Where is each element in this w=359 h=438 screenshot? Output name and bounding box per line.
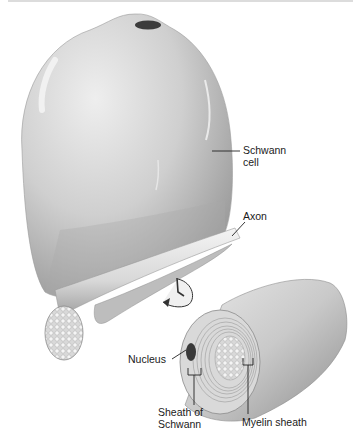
label-nucleus: Nucleus — [128, 353, 166, 365]
label-schwann-cell: Schwann cell — [243, 144, 286, 168]
label-myelin-sheath: Myelin sheath — [242, 416, 307, 428]
label-schwann-line1: Schwann — [243, 144, 286, 156]
label-schwann-line2: cell — [243, 156, 286, 168]
diagram-illustration — [0, 0, 359, 438]
label-sheath-line2: Schwann — [158, 418, 203, 430]
axon-cut-end — [45, 306, 83, 360]
schwann-cell-diagram: Schwann cell Axon Nucleus Sheath of Schw… — [0, 0, 359, 438]
axon-core — [215, 336, 245, 380]
label-axon: Axon — [243, 210, 267, 222]
label-sheath-of-schwann: Sheath of Schwann — [158, 406, 203, 430]
nucleus-shape — [186, 343, 196, 361]
myelinated-axon-cross-section — [180, 279, 347, 421]
schwann-cell-body — [22, 14, 233, 297]
label-sheath-line1: Sheath of — [158, 406, 203, 418]
cell-opening — [135, 21, 161, 30]
